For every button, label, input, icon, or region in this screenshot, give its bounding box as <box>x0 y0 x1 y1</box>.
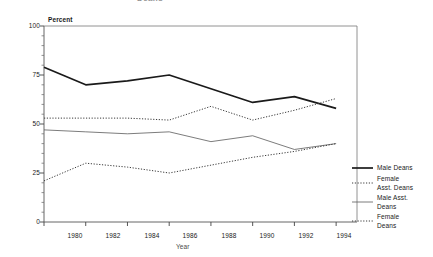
legend-label-male-deans: Male Deans <box>377 164 413 173</box>
chart-figure: Deans Percent Year 100 75 50 25 0 1980 1… <box>0 0 433 257</box>
legend-label-male-asst-deans: Male Asst. Deans <box>377 194 408 211</box>
legend-label-female-deans: Female Deans <box>377 213 399 230</box>
plot-area <box>0 0 433 257</box>
series-lines <box>44 67 336 181</box>
legend-label-female-asst-deans: Female Asst. Deans <box>377 175 413 192</box>
series-line-female-asst-deans <box>44 99 336 121</box>
axis-lines <box>44 26 357 222</box>
axis-ticks <box>40 26 336 226</box>
series-line-male-deans <box>44 67 336 108</box>
series-line-male-asst-deans <box>44 130 336 150</box>
